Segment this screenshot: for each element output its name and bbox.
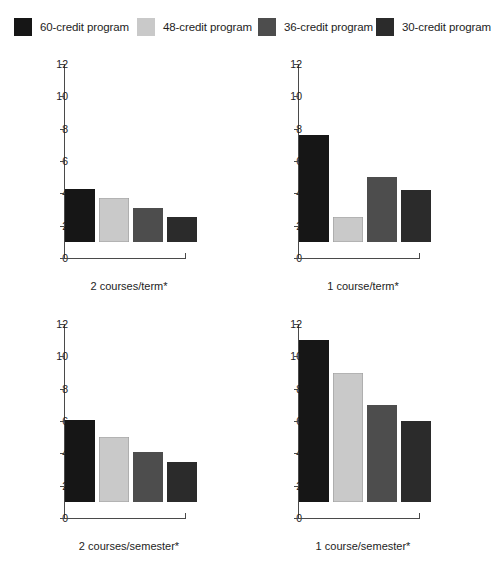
y-axis-tick-mark xyxy=(60,324,64,325)
bar xyxy=(401,421,431,502)
plot-area: 024681012 xyxy=(248,322,478,534)
x-axis xyxy=(298,518,420,519)
y-axis-tick-mark xyxy=(294,193,298,194)
y-axis-tick-mark xyxy=(294,453,298,454)
legend-swatch-icon xyxy=(376,18,394,36)
bar-group xyxy=(65,322,205,518)
bar xyxy=(65,189,95,242)
y-axis-tick-mark xyxy=(60,453,64,454)
legend-label: 60-credit program xyxy=(40,21,129,33)
plot-area: 024681012 xyxy=(14,62,244,274)
x-axis-label: 1 course/term* xyxy=(248,280,478,292)
x-axis xyxy=(64,258,186,259)
bar xyxy=(133,452,163,502)
bar xyxy=(133,208,163,242)
y-axis-tick-mark xyxy=(60,161,64,162)
bar xyxy=(99,437,129,502)
y-axis-tick-mark xyxy=(294,64,298,65)
y-axis-tick-mark xyxy=(60,193,64,194)
legend-entry: 30-credit program xyxy=(376,17,491,37)
legend-label: 48-credit program xyxy=(163,21,252,33)
y-axis-tick-mark xyxy=(60,389,64,390)
legend-entry: 48-credit program xyxy=(137,17,252,37)
y-axis-tick-mark xyxy=(294,324,298,325)
bar xyxy=(65,420,95,502)
y-axis-tick-mark xyxy=(60,486,64,487)
bar xyxy=(333,373,363,502)
legend-swatch-icon xyxy=(258,18,276,36)
y-axis-tick-mark xyxy=(294,226,298,227)
y-axis-tick-mark xyxy=(294,129,298,130)
bar-group xyxy=(65,62,205,258)
plot-area: 024681012 xyxy=(248,62,478,274)
y-axis-tick-mark xyxy=(60,356,64,357)
y-axis-tick-mark xyxy=(294,356,298,357)
bar xyxy=(367,405,397,502)
y-axis-tick-mark xyxy=(60,421,64,422)
chart-legend: 60-credit program48-credit program36-cre… xyxy=(0,17,484,41)
chart-panel-1-course-semester: 0246810121 course/semester* xyxy=(248,322,478,557)
chart-panel-2-courses-semester: 0246810122 courses/semester* xyxy=(14,322,244,557)
bar xyxy=(401,190,431,242)
bar xyxy=(299,135,329,242)
legend-entry: 36-credit program xyxy=(258,17,373,37)
x-axis-label: 2 courses/semester* xyxy=(14,540,244,552)
bar xyxy=(167,462,197,502)
y-axis-tick-mark xyxy=(294,389,298,390)
bar xyxy=(99,198,129,242)
legend-swatch-icon xyxy=(137,18,155,36)
chart-panel-1-course-term: 0246810121 course/term* xyxy=(248,62,478,297)
y-axis-tick-mark xyxy=(60,226,64,227)
bar xyxy=(299,340,329,502)
x-axis-label: 1 course/semester* xyxy=(248,540,478,552)
chart-panel-2-courses-term: 0246810122 courses/term* xyxy=(14,62,244,297)
y-axis-tick-mark xyxy=(294,96,298,97)
y-axis-tick-mark xyxy=(60,96,64,97)
y-axis-tick-mark xyxy=(294,486,298,487)
bar xyxy=(167,217,197,242)
x-axis-label: 2 courses/term* xyxy=(14,280,244,292)
bar-group xyxy=(299,322,439,518)
bar xyxy=(367,177,397,242)
bar xyxy=(333,217,363,242)
bar-group xyxy=(299,62,439,258)
legend-swatch-icon xyxy=(14,18,32,36)
plot-area: 024681012 xyxy=(14,322,244,534)
legend-entry: 60-credit program xyxy=(14,17,129,37)
y-axis-tick-mark xyxy=(60,129,64,130)
y-axis-tick-mark xyxy=(294,421,298,422)
legend-label: 36-credit program xyxy=(284,21,373,33)
legend-label: 30-credit program xyxy=(402,21,491,33)
y-axis-tick-mark xyxy=(60,64,64,65)
x-axis xyxy=(298,258,420,259)
x-axis xyxy=(64,518,186,519)
y-axis-tick-mark xyxy=(294,161,298,162)
